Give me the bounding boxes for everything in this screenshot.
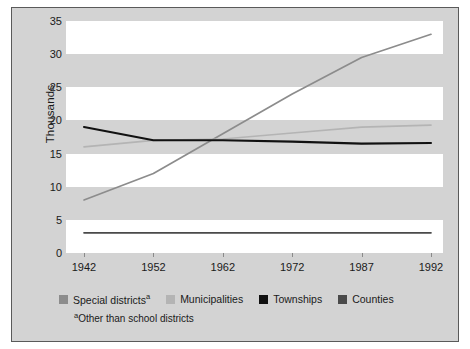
legend-item[interactable]: Special districtsa	[59, 292, 150, 306]
y-axis-tick-labels: 05101520253035	[20, 21, 62, 253]
x-tick-label: 1952	[123, 261, 183, 273]
legend-item[interactable]: Municipalities	[166, 293, 243, 305]
legend-swatch	[338, 295, 347, 304]
x-tick-mark	[153, 253, 154, 257]
legend-label: Municipalities	[180, 293, 243, 305]
legend-label: Townships	[273, 293, 322, 305]
legend-swatch	[259, 295, 268, 304]
y-tick-label: 35	[28, 15, 62, 27]
legend-swatch	[59, 295, 68, 304]
legend-swatch	[166, 295, 175, 304]
y-tick-label: 20	[28, 114, 62, 126]
legend-label: Special districtsa	[73, 292, 150, 306]
y-tick-label: 0	[28, 247, 62, 259]
x-tick-label: 1962	[193, 261, 253, 273]
y-tick-label: 25	[28, 81, 62, 93]
x-tick-label: 1992	[401, 261, 461, 273]
legend-item[interactable]: Counties	[338, 293, 393, 305]
x-tick-label: 1942	[54, 261, 114, 273]
series-line	[84, 34, 431, 200]
chart-footnote: aOther than school districts	[74, 311, 194, 324]
x-axis-tick-labels: 194219521962197219871992	[66, 253, 443, 279]
y-tick-label: 15	[28, 148, 62, 160]
legend-label: Counties	[352, 293, 393, 305]
y-tick-label: 30	[28, 48, 62, 60]
x-tick-label: 1987	[332, 261, 392, 273]
plot-area	[66, 21, 443, 253]
chart-legend: Special districtsaMunicipalitiesTownship…	[59, 291, 410, 307]
y-tick-label: 10	[28, 181, 62, 193]
x-tick-mark	[223, 253, 224, 257]
legend-footnote-marker: a	[146, 292, 150, 301]
x-tick-mark	[362, 253, 363, 257]
footnote-text: Other than school districts	[78, 313, 194, 324]
x-tick-label: 1972	[262, 261, 322, 273]
chart-figure: Thousands 05101520253035 194219521962197…	[11, 7, 459, 342]
x-tick-mark	[292, 253, 293, 257]
x-tick-mark	[431, 253, 432, 257]
series-lines	[66, 21, 443, 253]
legend-item[interactable]: Townships	[259, 293, 322, 305]
y-tick-label: 5	[28, 214, 62, 226]
x-tick-mark	[84, 253, 85, 257]
